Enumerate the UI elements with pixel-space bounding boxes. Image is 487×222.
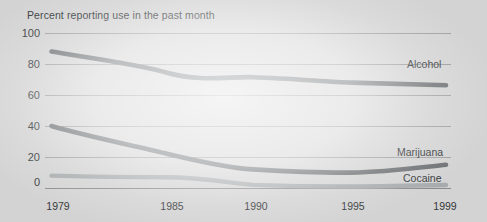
x-tick-1985: 1985 xyxy=(160,200,183,212)
chart-figure: Percent reporting use in the past month … xyxy=(0,0,487,222)
y-tick-40: 40 xyxy=(6,120,40,132)
series-line-alcohol xyxy=(52,52,447,86)
y-tick-100: 100 xyxy=(6,27,40,39)
series-label-marijuana: Marijuana xyxy=(397,146,443,158)
chart-series-lines xyxy=(0,0,487,222)
series-line-marijuana xyxy=(52,126,447,173)
y-tick-0: 0 xyxy=(6,176,40,188)
y-tick-20: 20 xyxy=(6,151,40,163)
series-label-cocaine: Cocaine xyxy=(403,172,442,184)
y-tick-80: 80 xyxy=(6,58,40,70)
x-tick-1999: 1999 xyxy=(433,200,456,212)
x-tick-1990: 1990 xyxy=(244,200,267,212)
x-tick-1979: 1979 xyxy=(46,200,69,212)
y-tick-60: 60 xyxy=(6,89,40,101)
page-title: Percent reporting use in the past month xyxy=(27,9,215,21)
series-label-alcohol: Alcohol xyxy=(407,58,441,70)
x-tick-1995: 1995 xyxy=(341,200,364,212)
series-line-cocaine xyxy=(52,176,447,187)
